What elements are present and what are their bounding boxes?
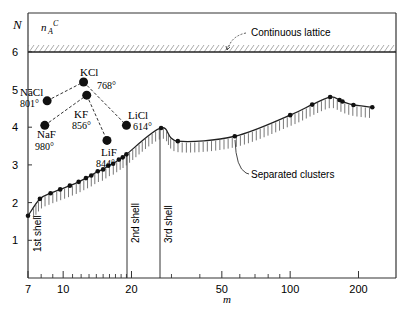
cluster-data-point (176, 139, 181, 144)
x-axis-ticks: 7102050100200 (25, 271, 368, 295)
salt-temp-kcl: 768° (97, 80, 116, 91)
salt-temp-lif: 844° (96, 158, 115, 169)
salt-point-licl (122, 121, 131, 130)
cluster-data-point (84, 176, 89, 181)
cluster-data-point (288, 113, 293, 118)
separated-clusters-annotation: Separated clusters (235, 140, 334, 180)
cluster-data-point (232, 134, 237, 139)
cluster-data-point (340, 99, 345, 104)
salt-temp-nacl: 801° (20, 98, 39, 109)
salt-label-kf: KF (74, 108, 88, 120)
salt-point-nacl (43, 96, 52, 105)
cluster-data-point (117, 157, 122, 162)
shell1-label: 1st shell (32, 215, 43, 252)
x-tick-label: 7 (25, 283, 31, 295)
separated-clusters-label: Separated clusters (251, 169, 334, 180)
y-tick-label: 2 (12, 197, 18, 209)
plot-frame (28, 13, 396, 278)
y-axis-label: N (12, 17, 23, 32)
alkali-halide-points: NaCl801°KCl768°KF856°NaF980°LiF844°LiCl6… (20, 66, 152, 169)
shell2-label: 2nd shell (130, 203, 141, 243)
salt-label-licl: LiCl (128, 109, 148, 121)
svg-text:C: C (53, 19, 59, 28)
salt-temp-kf: 856° (72, 120, 91, 131)
salt-label-lif: LiF (101, 146, 117, 158)
cluster-data-point (159, 126, 164, 131)
x-tick-label: 20 (125, 283, 137, 295)
svg-text:A: A (47, 27, 53, 36)
salt-label-kcl: KCl (80, 66, 98, 78)
x-tick-label: 100 (281, 283, 299, 295)
salt-label-nacl: NaCl (20, 86, 43, 98)
continuous-lattice-label: Continuous lattice (251, 27, 331, 38)
continuous-lattice-band (28, 45, 396, 52)
y-tick-label: 1 (12, 234, 18, 246)
svg-text:n: n (41, 21, 47, 33)
lattice-symbol: n A C (41, 19, 59, 36)
salt-temp-naf: 980° (35, 141, 54, 152)
cluster-data-point (370, 105, 375, 110)
x-tick-label: 200 (349, 283, 367, 295)
y-tick-label: 4 (12, 121, 18, 133)
cluster-data-point (124, 152, 129, 157)
x-tick-label: 10 (57, 283, 69, 295)
cluster-data-point (328, 95, 333, 100)
cluster-data-point (68, 183, 73, 188)
cluster-data-point (95, 169, 100, 174)
salt-label-naf: NaF (37, 128, 56, 140)
salt-point-kf (82, 91, 91, 100)
salt-point-kcl (79, 77, 88, 86)
shell3-label: 3rd shell (163, 205, 174, 243)
salt-point-lif (103, 136, 112, 145)
salt-temp-licl: 614° (133, 121, 152, 132)
cluster-data-point (48, 191, 53, 196)
cluster-data-point (26, 213, 31, 218)
cluster-data-point (310, 102, 315, 107)
cluster-data-point (120, 155, 125, 160)
cluster-data-point (76, 180, 81, 185)
cluster-coordination-chart: 123456 7102050100200 N m n A C Continuou… (0, 0, 410, 315)
y-tick-label: 6 (12, 46, 18, 58)
cluster-data-point (58, 187, 63, 192)
cluster-data-point (38, 197, 43, 202)
cluster-data-point (89, 173, 94, 178)
y-tick-label: 5 (12, 84, 18, 96)
cluster-data-point (351, 103, 356, 108)
y-tick-label: 3 (12, 159, 18, 171)
x-axis-label: m (223, 293, 231, 305)
